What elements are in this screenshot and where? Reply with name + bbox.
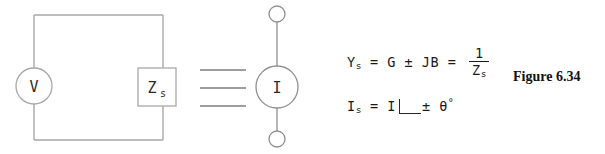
eq-admittance-plus-minus: ± <box>405 54 414 70</box>
angle-icon-vertical-stroke <box>399 99 400 114</box>
figure-6-34-container: V Z s I Ys = G ± JB = 1 Zs Is = I± θ° Fi… <box>0 0 605 154</box>
figure-caption: Figure 6.34 <box>513 69 580 85</box>
left-circuit-group <box>16 15 176 140</box>
eq-current-degree-symbol: ° <box>448 97 455 108</box>
fraction-denominator-base: Z <box>472 62 481 78</box>
eq-admittance-equals-2: = <box>448 54 457 70</box>
eq-current-theta: θ <box>439 98 448 114</box>
equation-admittance: Ys = G ± JB = 1 Zs <box>347 46 489 79</box>
eq-current-magnitude: I <box>387 98 396 114</box>
eq-admittance-susceptance: JB <box>422 54 439 70</box>
eq-current-lhs-subscript: s <box>356 104 362 115</box>
eq-current-plus-minus: ± <box>422 98 431 114</box>
impedance-label-subscript: s <box>160 88 166 99</box>
eq-current-equals: = <box>370 98 379 114</box>
angle-icon-horizontal-stroke <box>399 113 421 114</box>
eq-admittance-conductance: G <box>387 54 396 70</box>
impedance-box <box>138 68 176 106</box>
terminal-node-top <box>269 6 285 22</box>
voltage-source-label: V <box>29 78 38 96</box>
fraction-denominator: Zs <box>469 62 489 79</box>
terminal-node-bottom <box>269 131 285 147</box>
equals-sign <box>200 70 246 106</box>
fraction-denominator-subscript: s <box>481 68 487 79</box>
eq-admittance-equals-1: = <box>370 54 379 70</box>
current-source-label: I <box>272 79 281 97</box>
eq-admittance-lhs: Y <box>347 54 356 70</box>
right-circuit-group <box>256 6 298 147</box>
fraction-reciprocal-impedance: 1 Zs <box>469 46 489 79</box>
eq-current-lhs: I <box>347 98 356 114</box>
angle-icon <box>399 99 421 114</box>
fraction-numerator: 1 <box>469 46 489 61</box>
equation-source-current: Is = I± θ° <box>347 97 454 115</box>
eq-admittance-lhs-subscript: s <box>356 60 362 71</box>
impedance-label: Z <box>147 79 156 97</box>
